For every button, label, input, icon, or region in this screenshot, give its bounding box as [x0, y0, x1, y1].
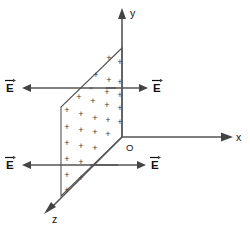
field-vector-upper-left: E	[5, 79, 116, 94]
charge-symbol: +	[90, 96, 95, 106]
field-vector-label: E	[6, 82, 14, 94]
charge-symbol: +	[105, 129, 110, 139]
charge-symbol: +	[78, 125, 83, 135]
vector-overbar-arrowhead	[13, 156, 16, 160]
y-axis-label: y	[130, 7, 136, 19]
charge-symbols-group: ++++++++++++++++++++++++++++	[64, 53, 122, 195]
charge-symbol: +	[64, 138, 69, 148]
charge-symbol: +	[93, 70, 98, 80]
charge-symbol: +	[104, 100, 109, 110]
charge-symbol: +	[64, 170, 69, 180]
charge-symbol: +	[105, 115, 110, 125]
physics-diagram-charged-plane: ++++++++++++++++++++++++++++ × y x z O E…	[0, 0, 250, 234]
charge-symbol: +	[76, 92, 81, 102]
x-axis-label: x	[236, 131, 242, 143]
z-axis-label: z	[52, 213, 57, 225]
field-vector-arrowhead	[22, 161, 31, 169]
vector-overbar-arrowhead	[158, 156, 161, 160]
vector-overbar-arrowhead	[160, 79, 163, 83]
charge-symbol: +	[106, 75, 111, 85]
charge-symbol: +	[64, 122, 69, 132]
charge-symbol: +	[64, 105, 69, 115]
field-vector-label: E	[153, 82, 161, 94]
charge-symbol: +	[106, 53, 111, 63]
field-vector-label: E	[151, 159, 159, 171]
field-vector-label: E	[6, 159, 14, 171]
field-vector-arrowhead	[137, 161, 146, 169]
diagram-canvas: ++++++++++++++++++++++++++++ × y x z O E…	[0, 0, 250, 234]
field-vector-upper-right: E	[106, 79, 163, 94]
vector-overbar-arrowhead	[13, 79, 16, 83]
x-axis-arrowhead	[221, 133, 233, 142]
charge-symbol: +	[64, 154, 69, 164]
origin-label: O	[126, 142, 133, 153]
electric-field-vectors-group: EEEE	[5, 79, 163, 171]
field-vector-arrowhead	[22, 84, 31, 92]
field-vector-arrowhead	[139, 84, 148, 92]
charge-symbol: +	[92, 113, 97, 123]
charge-symbol: +	[78, 109, 83, 119]
charge-symbol: +	[92, 143, 97, 153]
charge-symbol: +	[78, 141, 83, 151]
charge-symbol: +	[92, 127, 97, 137]
y-axis-arrowhead	[118, 8, 126, 19]
